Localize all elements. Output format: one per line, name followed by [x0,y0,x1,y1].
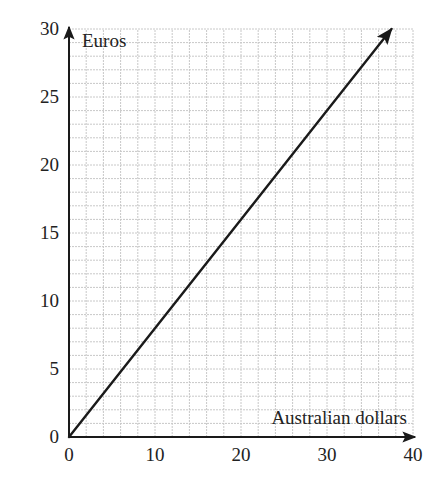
y-tick-label: 5 [50,358,60,379]
tick-labels: 010203040051015202530 [40,18,423,465]
x-tick-label: 30 [318,444,337,465]
y-axis-label: Euros [82,30,126,51]
x-tick-label: 40 [404,444,423,465]
grid [69,29,413,437]
y-tick-label: 15 [40,222,59,243]
conversion-chart: 010203040051015202530 Euros Australian d… [0,0,441,487]
x-tick-label: 20 [232,444,251,465]
x-axis-label: Australian dollars [271,407,407,428]
y-tick-label: 25 [40,86,59,107]
x-tick-label: 0 [64,444,74,465]
y-tick-label: 0 [50,426,60,447]
y-tick-label: 20 [40,154,59,175]
y-tick-label: 30 [40,18,59,39]
x-tick-label: 10 [146,444,165,465]
y-tick-label: 10 [40,290,59,311]
